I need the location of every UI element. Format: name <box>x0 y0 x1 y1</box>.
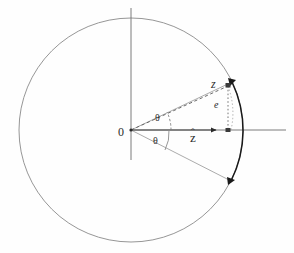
theta-upper-arc <box>167 112 171 130</box>
z-point-marker <box>226 83 231 88</box>
origin-marker <box>129 128 132 131</box>
e-label: e <box>214 100 218 110</box>
figure-container: 0 θ θ z ˆ z e <box>0 0 294 253</box>
zhat-accent-icon: ˆ <box>191 127 195 138</box>
theta-lower-label: θ <box>153 136 158 146</box>
arc-lower-arrowhead <box>227 177 235 185</box>
z-foot-marker <box>226 128 231 132</box>
dotted-chord-line <box>228 86 233 130</box>
theta-lower-arc <box>165 130 169 150</box>
theta-upper-label: θ <box>155 113 160 123</box>
lower-radius-ray <box>131 130 231 181</box>
z-point-label: z <box>211 78 216 90</box>
diagram-canvas <box>0 0 294 253</box>
origin-label: 0 <box>118 126 124 138</box>
highlighted-arc <box>231 82 243 181</box>
